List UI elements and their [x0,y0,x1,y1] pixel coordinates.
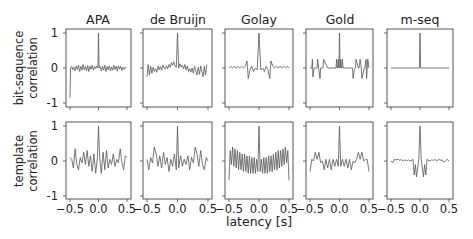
column-title-gold: Gold [326,12,355,27]
xtick-label: −0.5 [133,202,161,216]
column-title-m-seq: m-seq [401,12,440,27]
ytick-label: 0 [51,61,58,75]
ytick-label: -1 [47,189,58,203]
xtick-label: 0.0 [168,202,186,216]
panel-de-bruijn-template [140,122,212,202]
xtick-label: 0.5 [360,202,378,216]
xtick-label: 0.0 [89,202,107,216]
xtick-label: −0.5 [377,202,405,216]
xtick-label: 0.0 [330,202,348,216]
ytick-label: 1 [51,119,58,133]
plot-panels [63,29,453,202]
xtick-label: −0.5 [56,202,84,216]
row-label-bottom-line1: template [12,135,26,187]
row-label-top-line1: bit-sequence [12,31,26,106]
column-title-de-bruijn: de Bruijn [150,12,206,27]
panel-apa-bit-sequence [63,29,131,110]
xtick-label: 0.0 [411,202,429,216]
ytick-label: -1 [47,96,58,110]
column-title-golay: Golay [241,12,277,27]
panel-golay-template [222,122,293,202]
x-axis-label: latency [s] [226,214,292,229]
panel-m-seq-bit-sequence [384,29,453,110]
panel-gold-template [303,122,373,202]
panel-golay-bit-sequence [222,29,293,110]
panel-de-bruijn-bit-sequence [140,29,212,110]
figure: bit-sequence correlation template correl… [0,0,473,239]
ytick-label: 0 [51,154,58,168]
ytick-label: 1 [51,26,58,40]
row-label-bottom-line2: correlation [26,130,40,192]
xtick-label: 0.5 [440,202,458,216]
panel-gold-bit-sequence [303,29,373,110]
panel-m-seq-template [384,122,453,202]
panel-apa-template [63,122,131,202]
row-label-top-line2: correlation [26,37,40,99]
xtick-label: −0.5 [296,202,324,216]
column-title-apa: APA [86,12,110,27]
